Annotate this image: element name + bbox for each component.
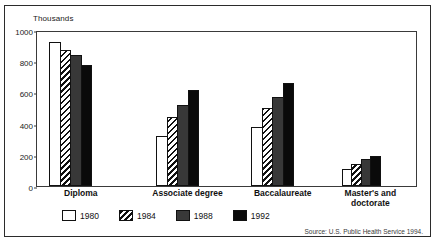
y-axis-tick-mark [34,32,37,33]
plot-area: 02004006008001000DiplomaAssociate degree… [36,31,417,187]
y-axis-tick-mark [34,63,37,64]
y-axis-tick-mark [34,156,37,157]
chart-legend: 1980198419881992 [62,210,290,221]
bar-group-bars [156,32,219,186]
bar-group: Associate degree [156,32,219,186]
bar-master-s-and-doctorate-1988 [361,159,372,186]
x-axis-category-label: Master's anddoctorate [345,189,397,208]
bar-group: Diploma [49,32,112,186]
legend-label: 1984 [137,211,156,221]
y-axis-tick-mark [34,94,37,95]
bar-group-bars [49,32,112,186]
bar-master-s-and-doctorate-1984 [351,164,362,186]
bar-associate-degree-1992 [188,90,200,186]
legend-label: 1992 [251,211,270,221]
bar-master-s-and-doctorate-1992 [370,156,381,186]
bar-baccalaureate-1992 [283,83,295,186]
legend-label: 1988 [194,211,213,221]
x-axis-category-label: Diploma [64,189,98,199]
bar-associate-degree-1988 [177,105,189,186]
bar-master-s-and-doctorate-1980 [342,169,353,186]
x-axis-category-label: Associate degree [152,189,222,199]
chart-figure: Thousands 02004006008001000DiplomaAssoci… [0,0,435,248]
legend-item-1992[interactable]: 1992 [233,210,270,221]
legend-swatch-1980-icon [62,210,76,221]
y-axis-units-label: Thousands [33,14,73,23]
bar-group-bars [342,32,399,186]
y-axis-tick-mark [34,188,37,189]
legend-swatch-1984-icon [119,210,133,221]
legend-label: 1980 [80,211,99,221]
legend-swatch-1988-icon [176,210,190,221]
source-note: Source: U.S. Public Health Service 1994. [304,228,423,235]
bar-associate-degree-1980 [156,136,168,186]
bar-diploma-1988 [70,55,82,186]
bar-diploma-1984 [60,50,72,187]
bar-baccalaureate-1980 [251,127,263,186]
bar-diploma-1992 [81,65,93,186]
bar-group: Baccalaureate [251,32,314,186]
bar-associate-degree-1984 [167,117,179,186]
legend-item-1988[interactable]: 1988 [176,210,213,221]
legend-swatch-1992-icon [233,210,247,221]
x-axis-category-label: Baccalaureate [254,189,312,199]
legend-item-1984[interactable]: 1984 [119,210,156,221]
bar-baccalaureate-1984 [262,108,274,186]
bar-group-bars [251,32,314,186]
bar-diploma-1980 [49,42,61,186]
bar-baccalaureate-1988 [272,97,284,186]
y-axis-tick-mark [34,125,37,126]
legend-item-1980[interactable]: 1980 [62,210,99,221]
bar-group: Master's anddoctorate [342,32,399,186]
